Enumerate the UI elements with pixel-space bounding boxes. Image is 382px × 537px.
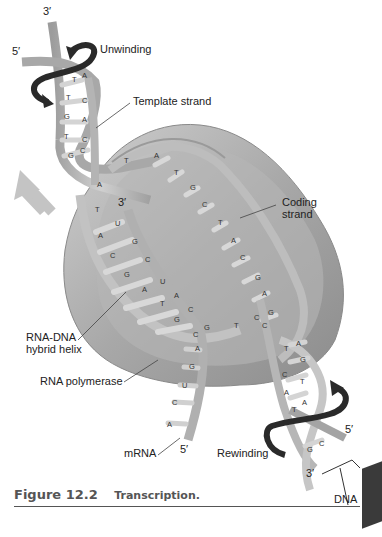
svg-text:T: T xyxy=(124,156,129,165)
svg-text:A: A xyxy=(195,344,200,353)
rna-3prime-label: 3′ xyxy=(118,196,126,209)
svg-text:C: C xyxy=(82,135,88,144)
svg-text:G: G xyxy=(255,273,261,282)
svg-text:C: C xyxy=(172,398,178,407)
top-3prime-label: 3′ xyxy=(43,5,51,18)
svg-text:G: G xyxy=(132,237,138,246)
svg-text:T: T xyxy=(72,75,77,84)
svg-text:T: T xyxy=(160,299,165,308)
svg-text:C: C xyxy=(254,313,260,322)
svg-text:C: C xyxy=(145,255,151,264)
top-5prime-label: 5′ xyxy=(12,45,20,58)
svg-text:A: A xyxy=(82,115,87,124)
template-strand-label: Template strand xyxy=(133,95,211,108)
svg-text:G: G xyxy=(64,112,70,121)
figure-caption: Figure 12.2 Transcription. xyxy=(14,485,360,507)
svg-text:G: G xyxy=(300,355,306,364)
rna-polymerase-label: RNA polymerase xyxy=(40,375,123,388)
svg-text:A: A xyxy=(296,339,301,348)
svg-text:A: A xyxy=(302,398,307,407)
rna-dna-label-line2: hybrid helix xyxy=(26,343,82,356)
bottom-5prime-label: 5′ xyxy=(345,423,353,436)
page-edge-shadow xyxy=(362,461,382,528)
svg-text:A: A xyxy=(231,236,236,245)
svg-text:C: C xyxy=(193,330,199,339)
svg-text:G: G xyxy=(189,362,195,371)
svg-text:G: G xyxy=(190,183,196,192)
svg-text:C: C xyxy=(262,321,268,330)
svg-text:A: A xyxy=(284,388,289,397)
svg-text:A: A xyxy=(262,289,267,298)
svg-text:C: C xyxy=(110,251,116,260)
mrna-label: mRNA xyxy=(124,447,156,460)
svg-text:G: G xyxy=(68,151,74,160)
svg-text:T: T xyxy=(300,377,305,386)
svg-text:T: T xyxy=(292,405,297,414)
svg-text:C: C xyxy=(80,146,86,155)
svg-text:T: T xyxy=(64,132,69,141)
svg-text:U: U xyxy=(160,277,165,286)
svg-text:U: U xyxy=(182,381,187,390)
svg-text:A: A xyxy=(154,151,159,160)
svg-text:C: C xyxy=(282,370,288,379)
svg-text:G: G xyxy=(268,308,274,317)
svg-text:C: C xyxy=(319,439,325,448)
figure-title: Transcription. xyxy=(114,489,200,502)
svg-text:T: T xyxy=(95,205,100,214)
svg-text:T: T xyxy=(284,344,289,353)
svg-text:A: A xyxy=(167,420,172,429)
figure-number: Figure 12.2 xyxy=(14,487,98,502)
svg-text:C: C xyxy=(82,96,88,105)
svg-text:G: G xyxy=(174,315,180,324)
unwinding-label: Unwinding xyxy=(100,43,151,56)
svg-text:G: G xyxy=(204,323,210,332)
svg-text:T: T xyxy=(218,218,223,227)
svg-text:A: A xyxy=(98,231,103,240)
coding-strand-label-line2: strand xyxy=(282,208,313,221)
svg-text:G: G xyxy=(307,445,313,454)
svg-text:U: U xyxy=(115,219,120,228)
svg-text:A: A xyxy=(142,285,147,294)
svg-text:C: C xyxy=(202,200,208,209)
svg-text:T: T xyxy=(174,168,179,177)
rewinding-label: Rewinding xyxy=(217,447,268,460)
direction-arrow-icon xyxy=(14,170,52,215)
bottom-3prime-label: 3′ xyxy=(306,467,314,480)
svg-text:T: T xyxy=(234,321,239,330)
mrna-5prime-label: 5′ xyxy=(180,443,188,456)
svg-text:A: A xyxy=(174,291,179,300)
svg-text:C: C xyxy=(240,253,246,262)
svg-text:G: G xyxy=(124,270,130,279)
svg-text:A: A xyxy=(82,71,87,80)
svg-text:A: A xyxy=(97,180,102,189)
svg-text:T: T xyxy=(66,93,71,102)
svg-text:C: C xyxy=(188,305,194,314)
